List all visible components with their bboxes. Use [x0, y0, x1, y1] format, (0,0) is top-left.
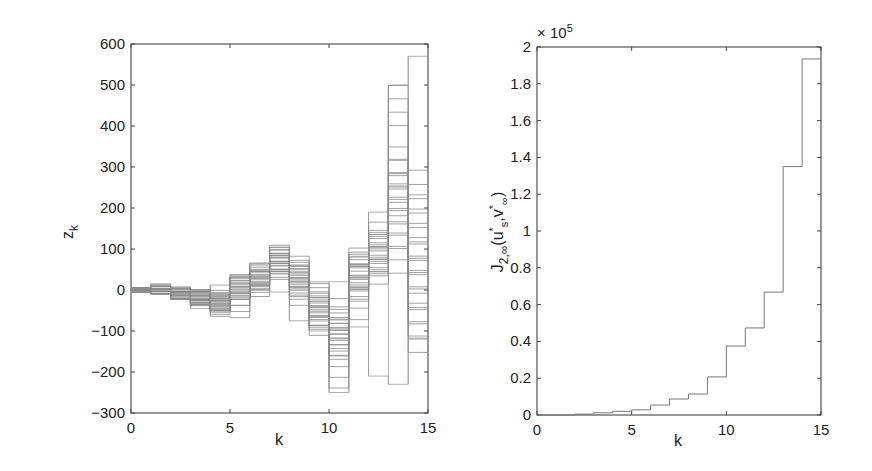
trajectory-trace [131, 173, 428, 324]
y-tick-label: 500 [100, 76, 125, 93]
y-tick-label: 1.6 [510, 112, 531, 129]
y-tick-label: 0.4 [510, 332, 531, 349]
x-tick-label: 10 [718, 421, 735, 438]
trajectory-trace [131, 176, 428, 328]
y-tick-label: 2 [523, 38, 531, 55]
cost-staircase [537, 59, 821, 415]
y-tick-label: 0.8 [510, 259, 531, 276]
y-tick-label: 1.4 [510, 148, 531, 165]
trajectory-trace [131, 216, 428, 360]
envelope-upper [131, 56, 428, 293]
trajectory-trace [131, 85, 428, 298]
envelope-lower [131, 286, 428, 393]
plot-frame [131, 44, 428, 413]
trajectory-trace [131, 186, 428, 334]
x-tick-label: 0 [127, 419, 135, 436]
y-tick-label: 0 [117, 281, 125, 298]
y-tick-label: −100 [91, 322, 125, 339]
y-tick-label: 0.6 [510, 296, 531, 313]
y-tick-label: 600 [100, 35, 125, 52]
right-plot-cost: 05101500.20.40.60.811.21.41.61.82 [510, 38, 829, 438]
y-tick-label: 1 [523, 222, 531, 239]
trajectory-trace [131, 247, 428, 377]
left-x-axis-label: k [275, 431, 284, 448]
x-tick-label: 15 [813, 421, 830, 438]
x-tick-label: 15 [420, 419, 437, 436]
x-tick-label: 0 [533, 421, 541, 438]
y-tick-label: 200 [100, 199, 125, 216]
left-plot-zk: 051015−300−200−1000100200300400500600 [91, 35, 436, 436]
right-y-axis-label: J2,∞(u*s,v*∞) [487, 192, 511, 272]
figure: 051015−300−200−1000100200300400500600 05… [0, 0, 872, 471]
y-tick-label: −300 [91, 404, 125, 421]
svg-text:J2,∞(u*s,v*∞): J2,∞(u*s,v*∞) [487, 192, 511, 272]
y-tick-label: 100 [100, 240, 125, 257]
trajectory-trace [131, 126, 428, 331]
x-tick-label: 5 [627, 421, 635, 438]
y-tick-label: 1.8 [510, 75, 531, 92]
right-y-multiplier: × 105 [537, 22, 573, 41]
x-tick-label: 10 [321, 419, 338, 436]
trajectory-trace [131, 147, 428, 323]
y-tick-label: 0 [523, 406, 531, 423]
plot-frame [537, 47, 821, 415]
trajectory-trace [131, 235, 428, 367]
trajectory-trace [131, 259, 428, 387]
x-tick-label: 5 [226, 419, 234, 436]
y-tick-label: 1.2 [510, 185, 531, 202]
y-tick-label: 0.2 [510, 369, 531, 386]
left-y-axis-label: zk [59, 224, 81, 239]
right-x-axis-label: k [674, 432, 683, 449]
y-tick-label: 400 [100, 117, 125, 134]
y-tick-label: 300 [100, 158, 125, 175]
y-tick-label: −200 [91, 363, 125, 380]
